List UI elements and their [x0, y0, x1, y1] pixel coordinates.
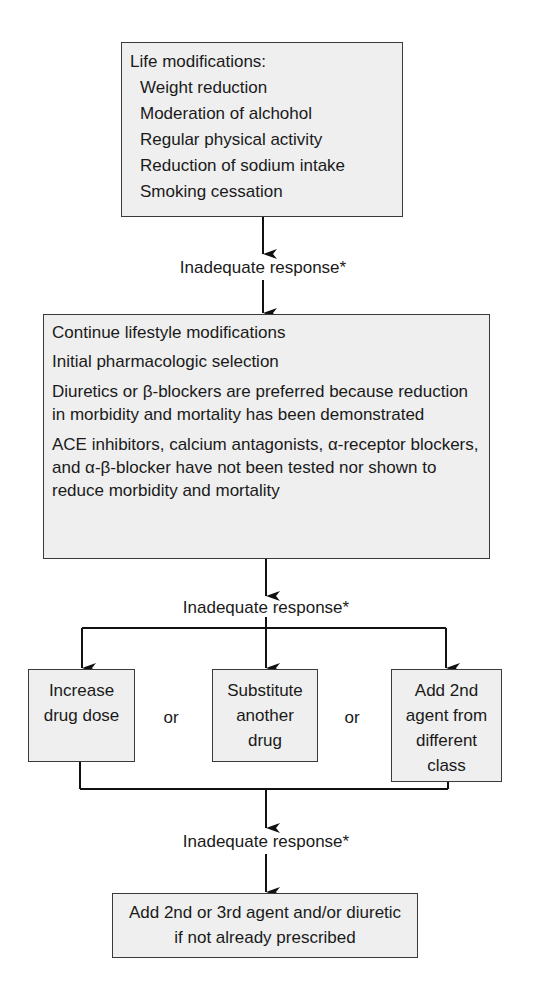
ace-inhibitors-text: ACE inhibitors, calcium antagonists, α-r… — [52, 433, 481, 502]
lifestyle-item: Moderation of alchohol — [130, 101, 394, 127]
lifestyle-title: Life modifications: — [130, 49, 394, 75]
increase-dose-box: Increase drug dose — [28, 669, 135, 762]
lifestyle-item: Reduction of sodium intake — [130, 153, 394, 179]
add-third-agent-label: Add 2nd or 3rd agent and/or diuretic if … — [129, 903, 401, 947]
substitute-drug-label: Substitute another drug — [227, 681, 303, 750]
inadequate-response-label-2: Inadequate response* — [183, 598, 349, 618]
lifestyle-item: Regular physical activity — [130, 127, 394, 153]
inadequate-response-label-3: Inadequate response* — [183, 832, 349, 852]
or-label-1: or — [163, 708, 178, 728]
initial-selection-text: Initial pharmacologic selection — [52, 350, 481, 374]
add-third-agent-box: Add 2nd or 3rd agent and/or diuretic if … — [112, 893, 418, 958]
lifestyle-item: Smoking cessation — [130, 179, 394, 205]
substitute-drug-box: Substitute another drug — [212, 669, 318, 762]
increase-dose-label: Increase drug dose — [44, 681, 120, 725]
continue-lifestyle-text: Continue lifestyle modifications — [52, 321, 481, 345]
lifestyle-item: Weight reduction — [130, 75, 394, 101]
add-second-agent-box: Add 2nd agent from different class — [391, 669, 502, 782]
pharmacologic-selection-box: Continue lifestyle modifications Initial… — [43, 314, 490, 559]
diuretics-preferred-text: Diuretics or β-blockers are preferred be… — [52, 380, 481, 426]
or-label-2: or — [344, 708, 359, 728]
add-second-agent-label: Add 2nd agent from different class — [406, 681, 487, 775]
lifestyle-modifications-box: Life modifications: Weight reduction Mod… — [121, 42, 403, 217]
inadequate-response-label-1: Inadequate response* — [180, 258, 346, 278]
